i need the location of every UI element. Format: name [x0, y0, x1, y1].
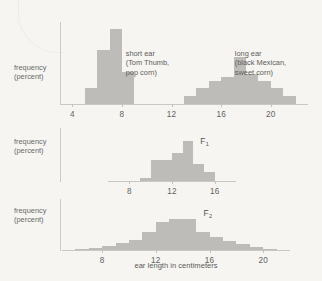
x-axis-tick-label: 8 — [127, 187, 132, 196]
plot-area-panel-3: 8121620F2 — [62, 208, 290, 251]
x-axis-tick — [129, 181, 130, 184]
scan-artifact — [18, 0, 63, 53]
y-axis-label-panel-2: frequency (percent) — [14, 137, 46, 155]
x-axis-tick-label: 4 — [70, 110, 75, 119]
histogram-bar — [210, 237, 223, 251]
histogram-bar — [169, 219, 182, 251]
bar-group-F1 — [108, 134, 236, 182]
plot-area-panel-2: 81216F1 — [108, 134, 236, 182]
x-axis-tick-label: 8 — [120, 110, 125, 119]
x-axis-tick-label: 12 — [167, 110, 177, 119]
x-axis-tick — [102, 250, 103, 253]
x-axis-tick-label: 16 — [216, 110, 226, 119]
histogram-bar — [258, 81, 270, 105]
histogram-bar — [97, 50, 109, 105]
histogram-bar — [209, 81, 221, 105]
annotation-line: (Tom Thumb, — [126, 58, 169, 67]
x-axis-tick — [210, 250, 211, 253]
histogram-bar — [85, 88, 97, 105]
annotation-long-ear: long ear(black Mexican,sweet corn) — [235, 49, 286, 77]
y-axis-label-line2: (percent) — [14, 72, 46, 81]
histogram-bar — [110, 29, 122, 105]
y-axis-label-line1: frequency — [14, 206, 46, 215]
x-axis-tick — [72, 104, 73, 107]
x-axis-tick — [271, 104, 272, 107]
y-axis-line-panel-3 — [60, 199, 61, 251]
x-axis-title: ear length in centimeters — [134, 261, 217, 270]
y-axis-label-line2: (percent) — [14, 146, 46, 155]
y-axis-label-line1: frequency — [14, 137, 46, 146]
histogram-bar — [193, 164, 204, 182]
generation-label-F2: F2 — [203, 208, 211, 218]
y-axis-line-panel-2 — [60, 128, 61, 182]
histogram-bar — [183, 141, 194, 182]
histogram-bar — [151, 160, 162, 182]
annotation-line: short ear — [126, 49, 169, 58]
annotation-line: pop corn) — [126, 68, 169, 77]
histogram-bar — [172, 153, 183, 182]
x-axis-tick-label: 8 — [100, 256, 105, 265]
x-axis-tick — [221, 104, 222, 107]
histogram-bar — [246, 74, 258, 105]
x-axis-tick — [156, 250, 157, 253]
x-axis-tick-label: 20 — [266, 110, 276, 119]
x-axis-tick — [122, 104, 123, 107]
generation-label-F1: F1 — [200, 136, 208, 146]
histogram-bar — [196, 88, 208, 105]
x-axis-line-F2 — [62, 250, 290, 251]
histogram-bar — [161, 160, 172, 182]
y-axis-label-line1: frequency — [14, 63, 46, 72]
histogram-bar — [183, 219, 196, 251]
figure-root: frequency (percent) 48121620short ear(To… — [0, 0, 322, 281]
histogram-bar — [221, 77, 233, 105]
x-axis-tick-label: 20 — [258, 256, 268, 265]
y-axis-label-panel-3: frequency (percent) — [14, 206, 46, 224]
bar-group-F2 — [62, 208, 290, 251]
histogram-bar — [142, 232, 155, 251]
y-axis-label-panel-1: frequency (percent) — [14, 63, 46, 81]
x-axis-tick — [215, 181, 216, 184]
x-axis-tick — [263, 250, 264, 253]
histogram-bar — [271, 88, 283, 105]
annotation-line: sweet corn) — [235, 68, 286, 77]
x-axis-tick-label: 16 — [210, 187, 220, 196]
histogram-bar — [196, 232, 209, 251]
x-axis-tick — [172, 104, 173, 107]
plot-area-panel-1: 48121620short ear(Tom Thumb,pop corn)lon… — [60, 22, 308, 105]
annotation-line: (black Mexican, — [235, 58, 286, 67]
x-axis-tick-label: 12 — [167, 187, 177, 196]
annotation-short-ear: short ear(Tom Thumb,pop corn) — [126, 49, 169, 77]
x-axis-tick — [172, 181, 173, 184]
histogram-bar — [156, 222, 169, 251]
annotation-line: long ear — [235, 49, 286, 58]
y-axis-label-line2: (percent) — [14, 215, 46, 224]
